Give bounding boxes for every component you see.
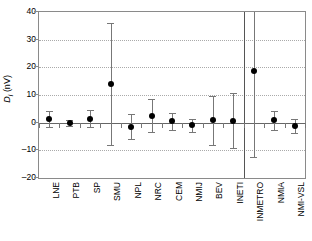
y-tick-label: 10 bbox=[12, 90, 36, 99]
y-tick-label: –20 bbox=[12, 173, 36, 182]
x-tick-label: SP bbox=[93, 182, 102, 193]
data-marker bbox=[292, 123, 298, 129]
x-tick-label: NPL bbox=[134, 182, 143, 199]
data-marker bbox=[67, 120, 73, 126]
error-bar-cap-upper bbox=[209, 96, 216, 97]
plot-area bbox=[38, 11, 306, 179]
category-separator-line bbox=[244, 12, 245, 178]
gridline bbox=[39, 40, 305, 41]
error-bar-cap-lower bbox=[66, 126, 73, 127]
error-bar-cap-lower bbox=[250, 157, 257, 158]
error-bar-cap-upper bbox=[189, 119, 196, 120]
x-tick-mark bbox=[121, 123, 122, 128]
error-bar-cap-lower bbox=[230, 148, 237, 149]
error-bar-cap-lower bbox=[189, 132, 196, 133]
data-marker bbox=[128, 124, 134, 130]
x-tick-label: LNE bbox=[52, 182, 61, 199]
error-bar-cap-lower bbox=[46, 127, 53, 128]
x-tick-label: PTB bbox=[72, 182, 81, 199]
x-axis-tick-labels: LNEPTBSPSMUNPLNRCCEMNMIJBEVINETIINMETRON… bbox=[38, 180, 306, 241]
error-bar-cap-lower bbox=[291, 133, 298, 134]
x-tick-mark bbox=[305, 123, 306, 128]
y-tick-label: –10 bbox=[12, 145, 36, 154]
x-tick-label: INETI bbox=[236, 182, 245, 204]
x-tick-label: NMIJ bbox=[195, 182, 204, 202]
x-tick-mark bbox=[141, 123, 142, 128]
error-bar-cap-upper bbox=[291, 119, 298, 120]
x-tick-mark bbox=[100, 123, 101, 128]
x-tick-mark bbox=[203, 123, 204, 128]
error-bar-cap-lower bbox=[107, 145, 114, 146]
error-bar-cap-upper bbox=[169, 113, 176, 114]
gridline bbox=[39, 150, 305, 151]
x-tick-mark bbox=[59, 123, 60, 128]
error-bar-cap-upper bbox=[107, 23, 114, 24]
error-bar-cap-upper bbox=[148, 99, 155, 100]
error-bar-cap-upper bbox=[128, 114, 135, 115]
x-tick-label: NMI-VSL bbox=[297, 182, 306, 216]
x-tick-label: CEM bbox=[175, 182, 184, 201]
x-tick-label: NMIA bbox=[277, 182, 286, 203]
data-marker bbox=[189, 122, 195, 128]
error-bar-cap-lower bbox=[128, 139, 135, 140]
y-tick-label: 20 bbox=[12, 62, 36, 71]
x-tick-label: NRC bbox=[154, 182, 163, 200]
y-tick-label: 0 bbox=[12, 117, 36, 126]
error-bar bbox=[254, 12, 255, 157]
x-tick-label: SMU bbox=[113, 182, 122, 201]
x-tick-mark bbox=[244, 123, 245, 128]
error-bar-cap-upper bbox=[271, 111, 278, 112]
x-tick-mark bbox=[80, 123, 81, 128]
error-bar-cap-lower bbox=[148, 132, 155, 133]
gridline bbox=[39, 95, 305, 96]
error-bar-cap-lower bbox=[87, 127, 94, 128]
data-marker bbox=[149, 113, 155, 119]
x-tick-mark bbox=[223, 123, 224, 128]
chart-figure: Di (nV) 403020100–10–20 LNEPTBSPSMUNPLNR… bbox=[0, 0, 312, 241]
x-tick-mark bbox=[162, 123, 163, 128]
error-bar-cap-upper bbox=[46, 111, 53, 112]
data-marker bbox=[87, 116, 93, 122]
data-marker bbox=[108, 81, 114, 87]
x-tick-mark bbox=[39, 123, 40, 128]
data-marker bbox=[251, 68, 257, 74]
y-axis-tick-labels: 403020100–10–20 bbox=[0, 0, 36, 241]
gridline bbox=[39, 67, 305, 68]
x-tick-mark bbox=[182, 123, 183, 128]
error-bar-cap-upper bbox=[230, 93, 237, 94]
x-tick-mark bbox=[285, 123, 286, 128]
y-tick-label: 30 bbox=[12, 34, 36, 43]
error-bar-cap-lower bbox=[169, 130, 176, 131]
x-tick-label: BEV bbox=[215, 182, 224, 199]
x-tick-label: INMETRO bbox=[256, 182, 265, 221]
error-bar-cap-lower bbox=[271, 130, 278, 131]
error-bar-cap-upper bbox=[87, 110, 94, 111]
data-marker bbox=[46, 116, 52, 122]
y-tick-label: 40 bbox=[12, 7, 36, 16]
error-bar-cap-lower bbox=[209, 145, 216, 146]
x-tick-mark bbox=[264, 123, 265, 128]
